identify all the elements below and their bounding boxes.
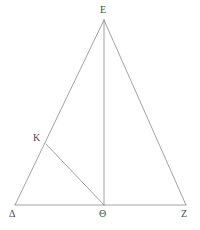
segments-group <box>15 20 186 205</box>
label-point-z: Z <box>181 209 187 219</box>
geometry-figure: E K Δ Θ Z <box>0 0 200 230</box>
segment-k-theta <box>46 144 104 205</box>
geometry-canvas <box>0 0 200 230</box>
segment-e-z <box>104 20 186 205</box>
label-point-delta: Δ <box>9 209 15 219</box>
label-point-k: K <box>33 133 40 143</box>
segment-delta-e <box>15 20 104 205</box>
label-point-e: E <box>100 5 106 15</box>
label-point-theta: Θ <box>99 209 106 219</box>
